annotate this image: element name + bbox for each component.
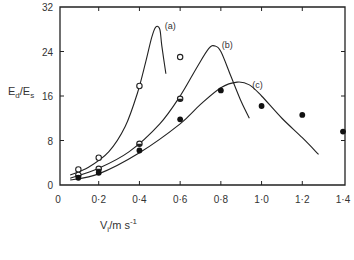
- series-a: (a): [70, 21, 183, 175]
- filled-circle-marker: [218, 88, 224, 94]
- filled-circle-marker: [177, 116, 183, 122]
- curve-label: (b): [222, 40, 233, 50]
- open-circle-marker: [76, 167, 81, 172]
- filled-circle-marker: [96, 170, 102, 176]
- filled-circle-marker: [75, 175, 81, 181]
- y-tick-label: 16: [42, 91, 54, 102]
- x-tick-label: 0·6: [173, 194, 188, 205]
- y-axis: 08162432: [42, 2, 345, 191]
- x-tick-label: 1·4: [336, 194, 351, 205]
- open-circle-marker: [177, 54, 182, 59]
- x-tick-label: 0·4: [132, 194, 147, 205]
- y-tick-label: 8: [47, 136, 53, 147]
- curve-label: (c): [252, 80, 263, 90]
- y-tick-label: 24: [42, 47, 54, 58]
- x-tick-label: 1·0: [254, 194, 269, 205]
- filled-circle-marker: [137, 148, 143, 154]
- y-tick-label: 0: [47, 180, 53, 191]
- filled-circle-marker: [299, 112, 305, 118]
- curve-label: (a): [165, 21, 176, 31]
- filled-circle-marker: [259, 103, 265, 109]
- x-tick-label: 0·8: [214, 194, 229, 205]
- x-tick-label: 1·2: [295, 194, 310, 205]
- plot-frame: [60, 7, 345, 185]
- fit-curve: [70, 26, 166, 175]
- filled-circle-marker: [340, 129, 346, 135]
- x-tick-label: 0·2: [91, 194, 106, 205]
- chart: 00·20·40·60·81·01·21·408162432Ed/EsVi/m …: [0, 0, 354, 260]
- series-c: (c): [70, 80, 346, 181]
- fit-curve: [70, 82, 318, 180]
- x-axis-label: Vi/m s-1: [100, 217, 138, 234]
- x-tick-label: 0: [55, 194, 61, 205]
- open-circle-marker: [137, 83, 142, 88]
- open-circle-marker: [96, 155, 101, 160]
- y-axis-label: Ed/Es: [8, 85, 34, 100]
- y-tick-label: 32: [42, 2, 54, 13]
